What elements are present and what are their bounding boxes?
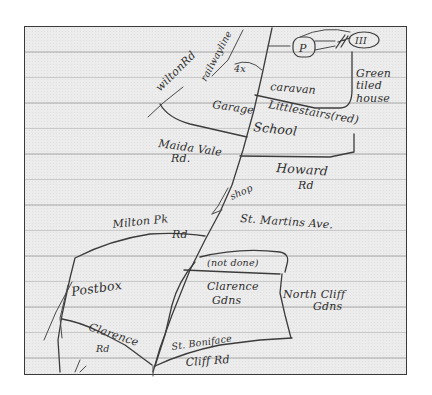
sketch-map: wiltonRd railwayline 4x P III caravan Gr… [0, 0, 432, 395]
label-school: School [253, 119, 298, 139]
label-cliff-rd: Cliff Rd [185, 353, 230, 369]
milton-pk-road [58, 233, 205, 372]
label-clarence-gdns-line2: Gdns [212, 294, 242, 307]
label-not-done: (not done) [207, 257, 259, 268]
label-st-martins-ave: St. Martins Ave. [240, 212, 334, 231]
label-clarence-gdns-line1: Clarence [207, 280, 259, 293]
label-parking: P [298, 42, 307, 55]
label-green-tiled-house-line2: tiled [356, 79, 382, 92]
arrow-marker [336, 35, 350, 48]
label-howard-rd-line2: Rd [297, 179, 314, 192]
label-milton-pk-line2: Rd [171, 228, 188, 241]
label-three-marks: III [354, 35, 367, 46]
bottom-ticks [75, 360, 153, 376]
clarence-gdns-top [184, 270, 280, 274]
label-garage: Garage [212, 98, 256, 117]
postbox-strokes [44, 282, 72, 340]
label-milton-pk-line1: Milton Pk [111, 212, 169, 231]
wilton-rd-stub [148, 87, 183, 117]
label-railway-line: railwayline [198, 29, 234, 83]
label-howard-rd-line1: Howard [275, 160, 329, 179]
label-four-x: 4x [233, 63, 246, 74]
label-north-cliff-line2: Gdns [313, 300, 343, 313]
label-green-tiled-house-line3: house [356, 92, 390, 105]
north-cliff-boundary [280, 274, 291, 338]
label-wilton-rd: wiltonRd [153, 49, 199, 95]
label-clarence-rd-line2: Rd [95, 343, 110, 354]
label-caravan: caravan [270, 80, 317, 97]
label-maida-vale-line2: Rd. [170, 152, 190, 165]
label-postbox: Postbox [69, 277, 122, 299]
school-boundary [240, 134, 354, 157]
